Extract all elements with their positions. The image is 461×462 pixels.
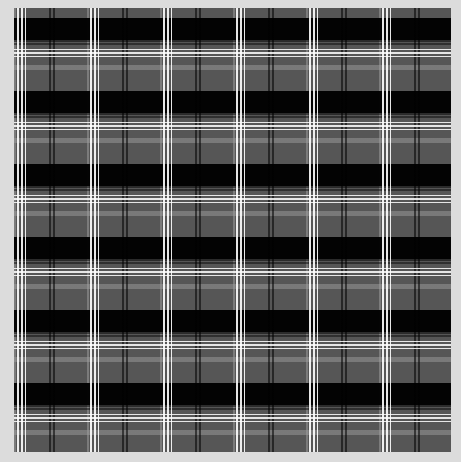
tartan-pattern [14, 8, 451, 452]
